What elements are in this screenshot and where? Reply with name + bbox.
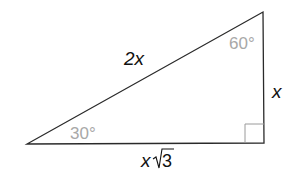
triangle-diagram: 60° 30° 2x x x 3 <box>0 0 302 182</box>
hypotenuse-label: 2x <box>123 48 146 69</box>
long-leg-variable: x <box>140 150 152 171</box>
long-leg-radicand: 3 <box>162 151 172 171</box>
angle-label-60: 60° <box>229 34 255 53</box>
right-angle-mark <box>245 124 264 143</box>
long-leg-label: x 3 <box>140 149 174 171</box>
triangle-outline <box>27 12 264 144</box>
short-leg-label: x <box>271 81 283 102</box>
angle-label-30: 30° <box>70 124 96 143</box>
